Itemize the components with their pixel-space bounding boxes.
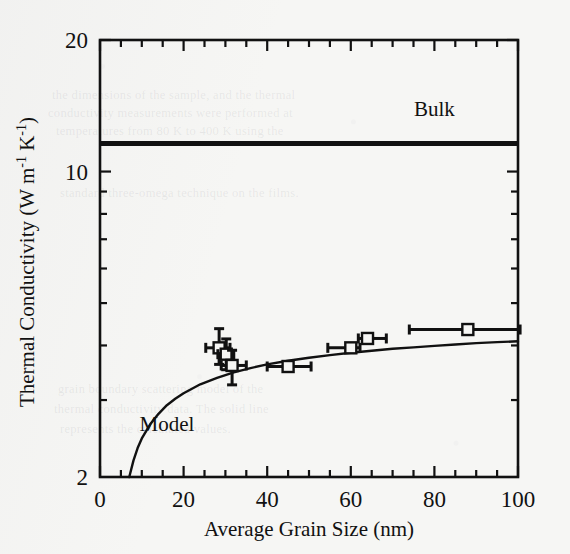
model-curve <box>129 341 518 477</box>
x-axis-title: Average Grain Size (nm) <box>204 517 414 541</box>
y-axis-tick-label: 20 <box>65 28 88 53</box>
x-axis-tick-label: 100 <box>501 487 536 512</box>
bulk-label: Bulk <box>414 97 455 121</box>
y-axis-tick-labels: 20102 <box>65 28 88 490</box>
y-axis-title: Thermal Conductivity (W m-1 K-1) <box>14 117 39 407</box>
data-point <box>328 342 360 353</box>
data-point-marker <box>345 342 356 353</box>
x-axis-tick-label: 20 <box>172 487 195 512</box>
model-label: Model <box>139 412 194 436</box>
x-axis-tick-labels: 020406080100 <box>94 487 535 512</box>
y-axis-title-exponent-1: -1 <box>14 156 29 168</box>
data-point-series <box>206 324 520 385</box>
data-point-marker <box>227 360 238 371</box>
y-axis-major-ticks <box>100 40 518 172</box>
data-point <box>358 333 386 344</box>
data-point-marker <box>283 361 294 372</box>
x-axis-tick-label: 40 <box>256 487 279 512</box>
x-axis-tick-label: 60 <box>339 487 362 512</box>
y-axis-minor-ticks <box>100 192 518 401</box>
y-axis-tick-label: 10 <box>65 160 88 185</box>
chart-canvas: 020406080100 20102 Bulk Model Average Gr… <box>0 0 570 554</box>
y-axis-tick-label: 2 <box>77 465 89 490</box>
model-curve-group: Model <box>129 341 518 477</box>
y-axis-title-lead: Thermal Conductivity (W m <box>15 168 39 407</box>
data-point <box>409 324 520 335</box>
bulk-reference-line-group: Bulk <box>100 97 518 143</box>
svg-text:Thermal Conductivity (W m-1 K-: Thermal Conductivity (W m-1 K-1) <box>14 117 39 407</box>
x-axis-tick-label: 0 <box>94 487 106 512</box>
thermal-conductivity-figure: 020406080100 20102 Bulk Model Average Gr… <box>0 0 570 554</box>
y-axis-title-mid: K <box>15 136 39 156</box>
data-point-marker <box>362 333 373 344</box>
data-point-marker <box>462 324 473 335</box>
y-axis-title-exponent-2: -1 <box>14 124 29 136</box>
x-axis-tick-label: 80 <box>423 487 446 512</box>
y-axis-title-tail: ) <box>15 117 39 124</box>
